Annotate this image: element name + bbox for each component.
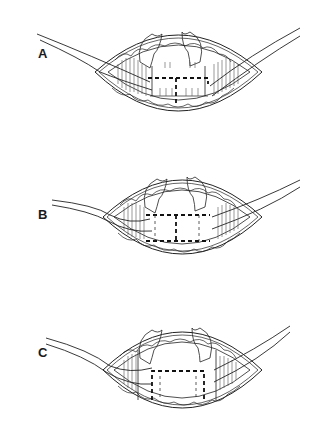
surgical-illustration-a (0, 0, 309, 145)
surgical-illustration-c (0, 290, 309, 434)
panel-a: A (0, 0, 309, 145)
surgical-illustration-b (0, 145, 309, 290)
panel-b: B (0, 145, 309, 290)
panel-c: C (0, 290, 309, 434)
